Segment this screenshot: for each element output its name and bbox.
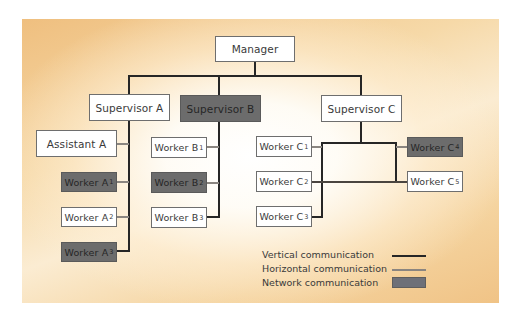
node-label: Worker C xyxy=(410,176,454,187)
node-subscript: 1 xyxy=(304,143,308,151)
line-spine-b xyxy=(218,121,220,218)
line-c-right-spine xyxy=(395,142,397,183)
node-worker-c4: Worker C4 xyxy=(407,137,463,157)
node-worker-b2: Worker B2 xyxy=(151,172,207,193)
line-b-worker3 xyxy=(206,216,220,218)
line-c-worker1 xyxy=(311,146,322,148)
node-subscript: 3 xyxy=(304,213,308,221)
line-to-supervisor-a xyxy=(128,75,130,95)
node-subscript: 3 xyxy=(199,214,203,222)
node-label: Manager xyxy=(232,43,279,55)
node-label: Supervisor A xyxy=(96,102,164,114)
node-subscript: 1 xyxy=(109,178,113,186)
node-subscript: 2 xyxy=(304,178,308,186)
legend-horizontal-swatch-icon xyxy=(392,269,426,271)
node-label: Supervisor C xyxy=(328,103,396,115)
node-subscript: 5 xyxy=(455,178,459,186)
node-worker-c1: Worker C1 xyxy=(256,136,312,157)
line-a-worker2 xyxy=(116,216,129,218)
node-worker-c2: Worker C2 xyxy=(256,171,312,192)
node-label: Assistant A xyxy=(47,138,106,150)
node-worker-a1: Worker A1 xyxy=(61,172,117,192)
line-c-drop xyxy=(360,121,362,144)
line-c2-c5-horizontal xyxy=(311,181,407,183)
node-label: Worker A xyxy=(64,177,108,188)
node-manager: Manager xyxy=(215,36,295,62)
node-subscript: 2 xyxy=(199,179,203,187)
line-b-worker1 xyxy=(206,146,219,148)
node-subscript: 4 xyxy=(455,143,459,151)
node-label: Worker C xyxy=(259,141,303,152)
node-worker-b3: Worker B3 xyxy=(151,207,207,228)
node-worker-a3: Worker A3 xyxy=(61,242,117,262)
node-label: Worker C xyxy=(259,211,303,222)
line-c-worker4 xyxy=(396,146,407,148)
legend-horizontal-label: Horizontal communication xyxy=(262,263,387,275)
node-worker-a2: Worker A2 xyxy=(61,207,117,227)
legend-vertical-swatch-icon xyxy=(392,255,426,257)
line-c-left-spine xyxy=(321,142,323,218)
node-subscript: 1 xyxy=(199,144,203,152)
node-label: Worker C xyxy=(410,142,454,153)
legend-network-swatch-icon xyxy=(392,277,426,288)
legend-vertical-label: Vertical communication xyxy=(262,249,374,261)
node-subscript: 2 xyxy=(109,213,113,221)
line-a-worker1 xyxy=(116,181,129,183)
node-subscript: 3 xyxy=(109,248,113,256)
line-spine-a xyxy=(128,120,130,252)
node-worker-b1: Worker B1 xyxy=(151,137,207,158)
node-supervisor-a: Supervisor A xyxy=(89,94,170,121)
node-supervisor-b: Supervisor B xyxy=(180,95,261,122)
node-label: Worker C xyxy=(259,176,303,187)
line-top-bus xyxy=(128,75,362,77)
node-worker-c3: Worker C3 xyxy=(256,206,312,227)
node-label: Worker A xyxy=(64,247,108,258)
node-assistant-a: Assistant A xyxy=(36,130,117,157)
node-supervisor-c: Supervisor C xyxy=(321,95,402,122)
line-c-worker3 xyxy=(311,216,323,218)
line-to-supervisor-b xyxy=(218,75,220,95)
node-label: Worker B xyxy=(154,212,198,223)
line-to-supervisor-c xyxy=(360,75,362,95)
node-label: Worker A xyxy=(64,212,108,223)
node-label: Supervisor B xyxy=(187,103,255,115)
node-worker-c5: Worker C5 xyxy=(407,171,463,192)
node-label: Worker B xyxy=(154,142,198,153)
line-c-bus xyxy=(321,142,397,144)
node-label: Worker B xyxy=(154,177,198,188)
line-b-worker2 xyxy=(206,182,219,184)
line-a-worker3 xyxy=(116,250,130,252)
line-a-assistant xyxy=(116,143,129,145)
legend-network-label: Network communication xyxy=(262,277,378,289)
